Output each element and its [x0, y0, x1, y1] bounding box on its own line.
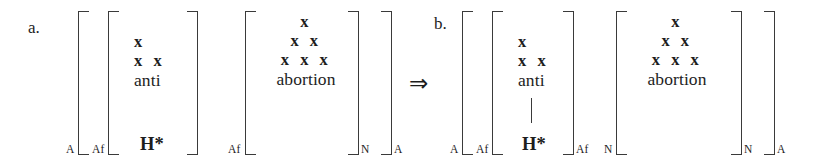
part-b-noun-close-subscript: N	[744, 143, 753, 155]
part-b-outer-a-open-bracket	[462, 11, 473, 155]
part-b-af-close-subscript: Af	[576, 143, 589, 155]
part-b-affix-word: anti	[518, 70, 549, 90]
part-b-stem-skeleton-row-3: x x x	[629, 50, 725, 69]
part-b-stem-tree: x x x x x x abortion	[629, 12, 725, 89]
part-b-stem-word: abortion	[629, 69, 725, 89]
part-b-affix-head-label: H*	[522, 134, 546, 155]
part-b-outer-a-close-subscript: A	[777, 143, 786, 155]
part-b-outer-a-open-subscript: A	[450, 143, 459, 155]
part-b-noun-open-bracket	[616, 11, 627, 155]
part-b-af-open-subscript: Af	[476, 143, 489, 155]
part-b-affix-tree: x x x anti	[518, 32, 549, 90]
part-b-noun-close-bracket	[731, 11, 742, 155]
part-b-af-close-bracket	[563, 11, 574, 155]
part-b-association-line	[531, 98, 532, 123]
part-b-group: b. A Af x x x anti H* Af N x x x x x x a…	[0, 0, 815, 164]
part-b-stem-skeleton-row-2: x x	[629, 31, 725, 50]
part-b-noun-open-subscript: N	[604, 143, 613, 155]
part-b-stem-skeleton-row-1: x	[629, 12, 725, 31]
part-b-af-open-bracket	[492, 11, 503, 155]
part-b-affix-skeleton-row-1: x	[518, 32, 549, 51]
part-b-label: b.	[434, 14, 447, 34]
part-b-affix-skeleton-row-2: x x	[518, 51, 549, 70]
part-b-outer-a-close-bracket	[764, 11, 775, 155]
